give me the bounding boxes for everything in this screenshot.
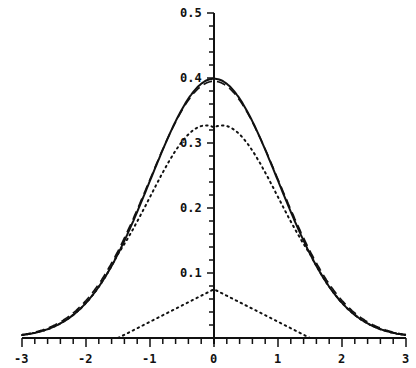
x-tick-label: 1 (274, 352, 281, 366)
x-tick-label: -3 (14, 352, 28, 366)
x-tick-label: -2 (78, 352, 92, 366)
x-tick-label: 2 (338, 352, 345, 366)
x-tick-label: -1 (142, 352, 156, 366)
x-tick-label: 0 (210, 352, 217, 366)
x-tick-label: 3 (402, 352, 409, 366)
y-tick-label: 0.3 (180, 136, 202, 150)
y-tick-label: 0.2 (180, 201, 202, 215)
chart: -3-2-101230.10.20.30.40.5 (0, 0, 416, 368)
y-tick-label: 0.5 (180, 6, 202, 20)
y-tick-label: 0.1 (180, 266, 202, 280)
y-tick-label: 0.4 (180, 71, 202, 85)
